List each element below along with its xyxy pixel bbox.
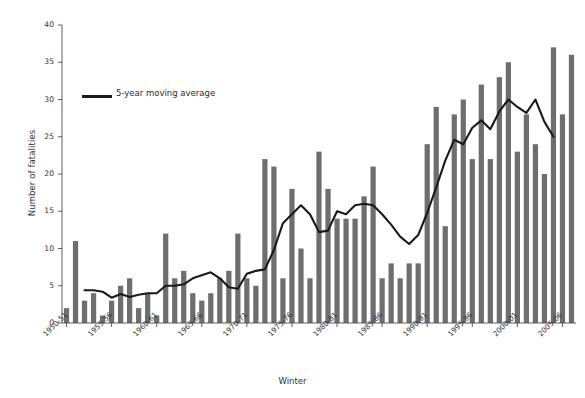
y-axis-ticks [58,25,62,323]
bar [316,152,321,323]
y-tick-label: 5 [28,281,54,290]
bar [389,263,394,323]
bar [334,219,339,323]
bar [325,189,330,323]
bar [181,271,186,323]
bar [73,241,78,323]
bar [343,219,348,323]
bar [488,159,493,323]
bar [298,249,303,324]
fatalities-bar-chart: Number of fatalities Winter 5-year movin… [0,0,585,398]
bar [253,286,258,323]
y-tick-label: 35 [28,57,54,66]
bar [370,167,375,323]
bar [127,278,132,323]
legend-label-moving-average: 5-year moving average [116,88,215,98]
bar [352,219,357,323]
bar [217,278,222,323]
bar [289,189,294,323]
bar [235,234,240,323]
bar [560,114,565,323]
bar [407,263,412,323]
bar [425,144,430,323]
bar [569,55,574,323]
bar [470,159,475,323]
bar [533,144,538,323]
bar [91,293,96,323]
bar [443,226,448,323]
legend-line-swatch [82,95,112,98]
bar [307,278,312,323]
bar [551,47,556,323]
y-tick-label: 30 [28,95,54,104]
y-tick-label: 25 [28,132,54,141]
bar [118,286,123,323]
y-tick-label: 15 [28,206,54,215]
bar [163,234,168,323]
x-axis-title: Winter [0,376,585,386]
bar [208,293,213,323]
bar [82,301,87,323]
y-tick-label: 10 [28,244,54,253]
bar [542,174,547,323]
bar [515,152,520,323]
bar [524,114,529,323]
bar [434,107,439,323]
y-tick-label: 20 [28,169,54,178]
bar [262,159,267,323]
bar [226,271,231,323]
bar [361,196,366,323]
bar [398,278,403,323]
y-tick-label: 40 [28,20,54,29]
bar [461,100,466,324]
